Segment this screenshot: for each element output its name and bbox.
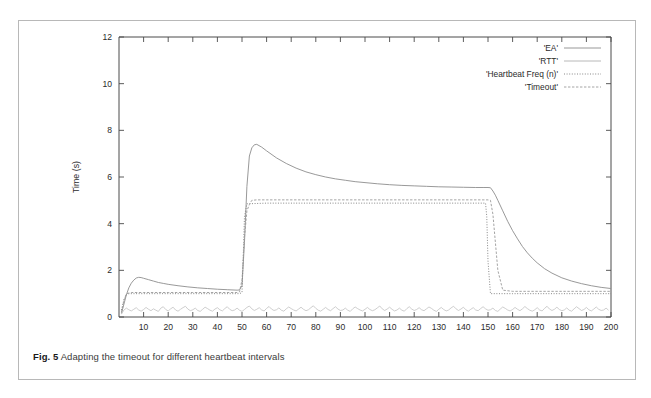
series-line: [121, 144, 611, 313]
x-tick-label: 10: [139, 322, 149, 332]
series-line: [121, 203, 611, 310]
x-tick-label: 30: [188, 322, 198, 332]
x-tick-label: 180: [555, 322, 570, 332]
x-tick-label: 200: [604, 322, 619, 332]
x-tick-label: 130: [432, 322, 447, 332]
legend-label: 'Heartbeat Freq (n)': [486, 69, 558, 79]
figure-frame: 0246810121020304050607080901001101201301…: [18, 20, 636, 380]
x-tick-label: 50: [237, 322, 247, 332]
x-axis-title: Message number: [331, 340, 399, 341]
timeout-adaptation-line-chart: 0246810121020304050607080901001101201301…: [19, 21, 637, 341]
x-tick-label: 60: [262, 322, 272, 332]
x-tick-label: 80: [311, 322, 321, 332]
x-tick-label: 120: [407, 322, 422, 332]
x-tick-label: 100: [358, 322, 373, 332]
chart-plot-area: 0246810121020304050607080901001101201301…: [19, 21, 637, 341]
x-tick-label: 160: [505, 322, 520, 332]
figure-number: Fig. 5: [33, 351, 58, 362]
y-tick-label: 10: [102, 79, 112, 89]
y-tick-label: 12: [102, 32, 112, 42]
chart-legend: 'EA''RTT''Heartbeat Freq (n)''Timeout': [486, 43, 601, 92]
y-tick-label: 0: [107, 312, 112, 322]
y-tick-label: 4: [107, 219, 112, 229]
y-tick-label: 6: [107, 172, 112, 182]
series-line: [121, 200, 611, 312]
y-axis-title: Time (s): [71, 161, 81, 193]
x-tick-label: 70: [286, 322, 296, 332]
x-tick-label: 20: [163, 322, 173, 332]
y-tick-label: 8: [107, 125, 112, 135]
legend-label: 'EA': [544, 43, 559, 53]
x-tick-label: 140: [456, 322, 471, 332]
x-tick-label: 110: [383, 322, 397, 332]
x-tick-label: 150: [481, 322, 496, 332]
series-lines: [121, 144, 611, 314]
x-tick-label: 40: [213, 322, 223, 332]
x-tick-label: 170: [530, 322, 545, 332]
legend-label: 'Timeout': [525, 82, 559, 92]
x-tick-label: 90: [336, 322, 346, 332]
figure-caption-text: Adapting the timeout for different heart…: [61, 351, 285, 362]
legend-label: 'RTT': [539, 56, 559, 66]
x-tick-label: 190: [579, 322, 594, 332]
figure-caption: Fig. 5 Adapting the timeout for differen…: [33, 351, 613, 362]
y-tick-label: 2: [107, 265, 112, 275]
